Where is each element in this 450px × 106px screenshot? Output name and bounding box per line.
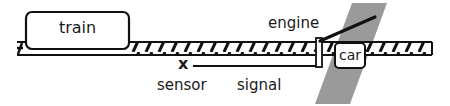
- train-label: train: [26, 20, 129, 36]
- car-label: car: [335, 48, 365, 62]
- gate-post: [316, 38, 322, 67]
- signal-label: signal: [237, 78, 281, 93]
- sensor-mark-icon: x: [178, 56, 188, 72]
- railroad-crossing-diagram: train car engine x sensor signal: [0, 0, 450, 106]
- sensor-label: sensor: [157, 78, 207, 93]
- engine-label: engine: [268, 16, 319, 31]
